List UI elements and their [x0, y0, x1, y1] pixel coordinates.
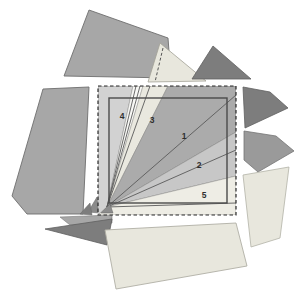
label-sector-5: 5 [202, 190, 207, 200]
outer-frame-right-cream [243, 167, 289, 247]
outer-frame-right-midgray [244, 131, 294, 172]
central-region: 4 3 1 2 5 [98, 86, 236, 215]
outer-frame-topright-dark [192, 46, 251, 79]
label-sector-1: 1 [182, 131, 187, 141]
diagram-canvas: 4 3 1 2 5 [0, 0, 297, 301]
outer-frame-left [12, 87, 89, 214]
label-sector-2: 2 [197, 160, 202, 170]
outer-frame-right-dark [243, 87, 288, 128]
sector-fan [98, 86, 236, 215]
outer-frame-bottom-cream [105, 223, 247, 289]
label-sector-3: 3 [150, 115, 155, 125]
label-sector-4: 4 [120, 111, 125, 121]
rotated-frames-diagram: 4 3 1 2 5 [0, 0, 297, 301]
